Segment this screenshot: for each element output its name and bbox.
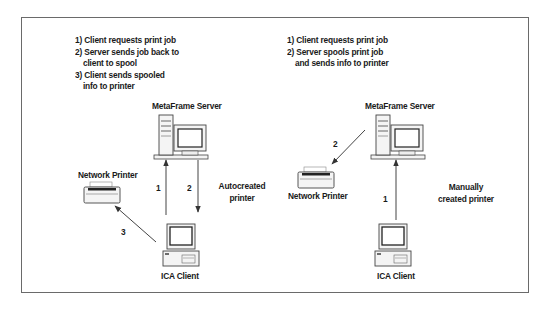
right-arrow-2 [332,130,365,164]
right-client-icon [372,222,414,268]
right-server-icon [369,113,427,160]
right-printer-icon [296,166,336,190]
arrows-layer [0,0,549,309]
left-arrow-3 [115,206,156,242]
left-printer-icon [82,181,122,205]
left-client-icon [160,222,202,268]
left-server-icon [152,113,210,160]
